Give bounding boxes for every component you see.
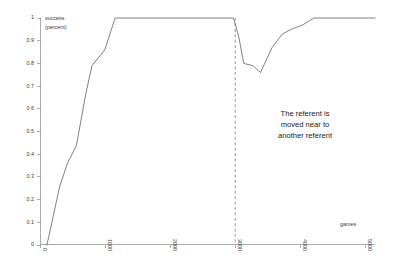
annotation-line-2: moved near to (281, 120, 330, 129)
x-tick-label: 1000 (107, 239, 113, 251)
annotation-line-3: another referent (278, 131, 333, 140)
x-tick-label: 3000 (237, 239, 243, 251)
x-tick-label: 2000 (172, 239, 178, 251)
y-axis-label-line2: (percent) (45, 24, 67, 30)
y-tick-label: 0.5 (27, 128, 35, 134)
x-tick-label: 4000 (302, 239, 308, 251)
line-chart: 1 0.9 0.8 0.7 0.6 0.5 0.4 0.3 0.2 0.1 0 (0, 0, 405, 274)
y-tick-label: 0.9 (27, 37, 35, 43)
annotation-line-1: The referent is (281, 109, 330, 118)
y-tick-label: 0.7 (27, 83, 35, 89)
x-axis-ticks: 0 1000 2000 3000 4000 5000 (41, 239, 373, 251)
y-tick-label: 0.3 (27, 173, 35, 179)
y-axis-label-line1: success (45, 15, 65, 21)
y-tick-label: 1 (31, 14, 34, 20)
chart-container: 1 0.9 0.8 0.7 0.6 0.5 0.4 0.3 0.2 0.1 0 (0, 0, 405, 274)
y-tick-label: 0.1 (27, 219, 35, 225)
x-tick-label: 5000 (367, 239, 373, 251)
event-annotation: The referent is moved near to another re… (278, 109, 333, 140)
x-tick-label: 0 (42, 248, 48, 251)
y-tick-label: 0.4 (27, 151, 35, 157)
y-tick-label: 0.6 (27, 105, 35, 111)
y-axis-ticks: 1 0.9 0.8 0.7 0.6 0.5 0.4 0.3 0.2 0.1 0 (27, 14, 41, 247)
y-tick-label: 0 (31, 241, 34, 247)
y-tick-label: 0.2 (27, 196, 35, 202)
y-tick-label: 0.8 (27, 60, 35, 66)
x-axis-label: games (340, 221, 356, 227)
